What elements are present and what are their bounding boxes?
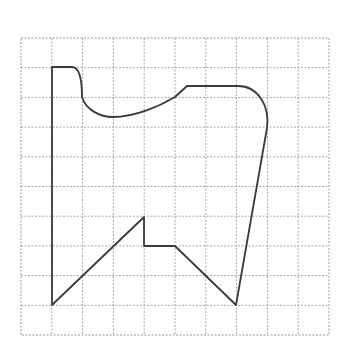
grid-diagram <box>0 0 339 349</box>
